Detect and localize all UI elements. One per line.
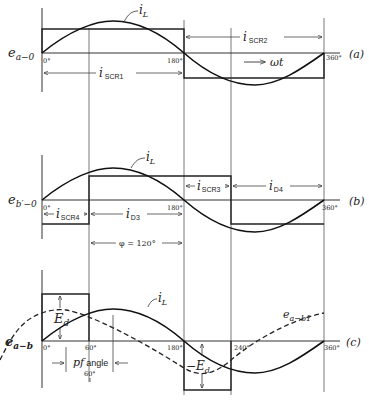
panel-c-tag: (c) — [346, 336, 361, 349]
panel-a: ea−0 0° 180° 360° (a) iL iSCR1 iSCR2 ωt — [8, 3, 364, 92]
panel-a-omega-t-label: ωt — [270, 56, 284, 69]
panel-b-phi-label: φ = 120° — [119, 239, 156, 248]
panel-b-tick-180: 180° — [167, 204, 183, 212]
panel-b-tick-0: 0° — [43, 204, 50, 212]
panel-a-tag: (a) — [349, 48, 364, 61]
panel-b: eb′−0 0° 180° 360° (b) iL iSCR4 iD3 iSCR… — [8, 150, 365, 250]
panel-b-tick-360: 360° — [322, 204, 338, 212]
panel-c-pf-value: 60° — [84, 370, 96, 378]
panel-b-tag: (b) — [349, 195, 365, 208]
panel-c-tick-60: 60° — [85, 344, 97, 352]
panel-a-tick-180: 180° — [167, 57, 183, 65]
panel-c: ea−b 0° 60° 180° 240° 360° (c) iL Ed −Ed… — [0, 270, 361, 390]
panel-b-ylabel: eb′−0 — [8, 192, 37, 209]
inverter-waveform-diagram: ea−0 0° 180° 360° (a) iL iSCR1 iSCR2 ωt … — [0, 0, 369, 401]
panel-a-ylabel: ea−0 — [8, 45, 35, 62]
panel-c-tick-240: 240° — [234, 344, 250, 352]
panel-c-tick-180: 180° — [167, 344, 183, 352]
panel-a-tick-360: 360° — [326, 54, 342, 62]
panel-c-ylabel: ea−b — [5, 334, 33, 351]
panel-c-fundamental-voltage-curve — [0, 310, 324, 374]
panel-c-ed-label: Ed — [53, 311, 70, 328]
panel-b-il-label: iL — [146, 150, 155, 166]
panel-c-fundamental-label: ea−b1 — [283, 308, 311, 323]
panel-c-il-label: iL — [158, 291, 167, 307]
panel-a-tick-0: 0° — [43, 57, 50, 65]
panel-c-neg-ed-label: −Ed — [186, 359, 210, 375]
panel-a-il-label: iL — [139, 3, 148, 19]
panel-c-pf-label: pfangle — [73, 356, 108, 369]
panel-c-tick-0: 0° — [43, 344, 50, 352]
panel-c-tick-360: 360° — [324, 344, 340, 352]
